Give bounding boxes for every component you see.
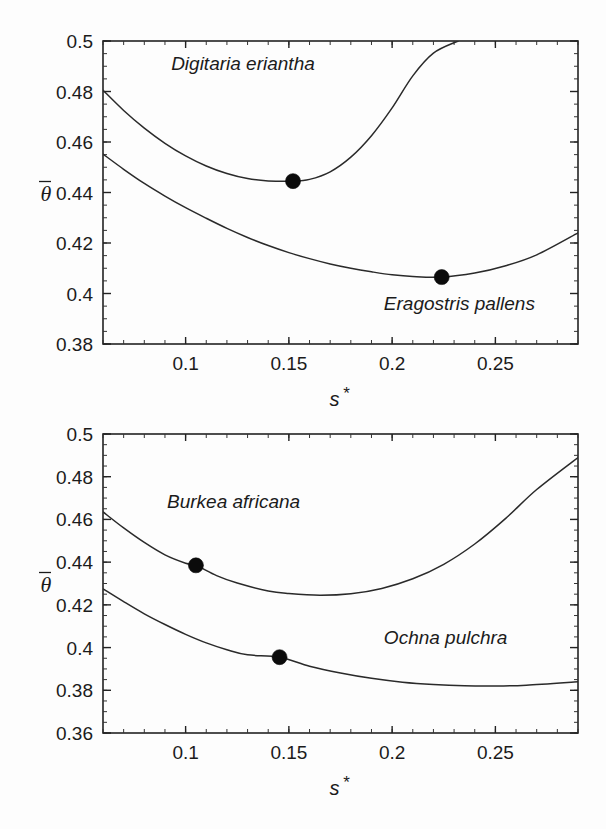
- x-axis-tick-label: 0.2: [379, 353, 405, 374]
- y-axis-tick-label: 0.4: [67, 638, 94, 659]
- series-label-burkea-africana: Burkea africana: [167, 491, 300, 512]
- y-axis-tick-label: 0.46: [56, 132, 93, 153]
- y-axis-tick-label: 0.5: [67, 31, 93, 52]
- series-marker-digitaria-eriantha: [286, 174, 301, 189]
- y-axis-tick-label: 0.48: [56, 82, 93, 103]
- y-axis-tick-label: 0.44: [56, 552, 93, 573]
- series-label-digitaria-eriantha: Digitaria eriantha: [171, 53, 315, 74]
- chart-panel-bottom: 0.10.150.20.250.360.380.40.420.440.460.4…: [0, 393, 606, 829]
- x-axis-tick-label: 0.25: [477, 742, 514, 763]
- y-axis-tick-label: 0.48: [56, 467, 93, 488]
- chart-svg-bottom: 0.10.150.20.250.360.380.40.420.440.460.4…: [0, 393, 606, 829]
- y-axis-tick-label: 0.36: [56, 723, 93, 744]
- x-axis-tick-label: 0.15: [270, 353, 307, 374]
- figure-container: 0.10.150.20.250.380.40.420.440.460.480.5…: [0, 0, 606, 829]
- x-axis-tick-label: 0.25: [477, 353, 514, 374]
- series-group: [103, 41, 578, 285]
- y-axis-tick-label: 0.42: [56, 595, 93, 616]
- series-marker-ochna-pulchra: [272, 650, 287, 665]
- y-axis-tick-label: 0.4: [67, 284, 94, 305]
- series-label-eragostris-pallens: Eragostris pallens: [384, 293, 536, 314]
- series-label-ochna-pulchra: Ochna pulchra: [384, 627, 508, 648]
- plot-frame: [103, 434, 578, 733]
- chart-svg-top: 0.10.150.20.250.380.40.420.440.460.480.5…: [0, 0, 606, 415]
- y-axis-tick-label: 0.44: [56, 183, 93, 204]
- y-axis-tick-label: 0.38: [56, 680, 93, 701]
- x-axis-tick-label: 0.2: [379, 742, 405, 763]
- x-axis-tick-label: 0.15: [270, 742, 307, 763]
- chart-panel-top: 0.10.150.20.250.380.40.420.440.460.480.5…: [0, 0, 606, 415]
- x-axis-tick-label: 0.1: [172, 353, 198, 374]
- y-axis-tick-label: 0.5: [67, 424, 93, 445]
- y-axis-tick-label: 0.42: [56, 233, 93, 254]
- series-curve-burkea-africana: [103, 457, 578, 595]
- x-axis-title-superscript: *: [343, 773, 350, 792]
- series-marker-eragostris-pallens: [434, 270, 449, 285]
- y-axis-tick-label: 0.46: [56, 509, 93, 530]
- y-axis-title: θ: [41, 181, 52, 206]
- x-axis-tick-label: 0.1: [172, 742, 198, 763]
- x-axis-title: s: [330, 777, 340, 799]
- y-axis-title: θ: [41, 572, 52, 597]
- series-curve-eragostris-pallens: [103, 154, 578, 277]
- series-marker-burkea-africana: [188, 558, 203, 573]
- y-axis-tick-label: 0.38: [56, 334, 93, 355]
